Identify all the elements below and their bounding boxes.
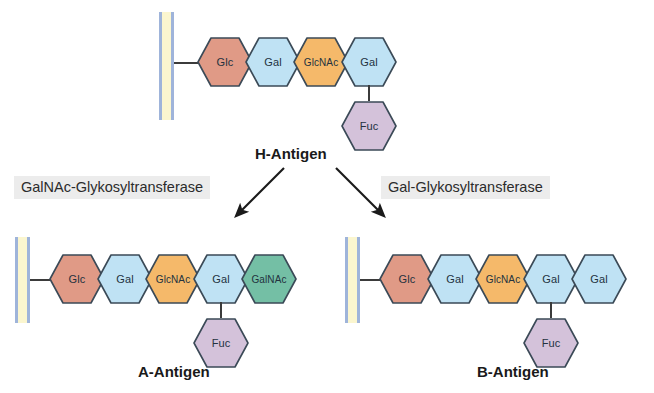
b-antigen-label: B-Antigen bbox=[477, 363, 549, 380]
membrane-line-outer bbox=[15, 237, 18, 323]
membrane-stem-a-antigen bbox=[30, 279, 50, 281]
sugar-hexagon-fuc-h-branch: Fuc bbox=[341, 101, 397, 151]
membrane-line-outer bbox=[159, 12, 162, 120]
branch-connector-a bbox=[220, 302, 222, 318]
membrane-fill bbox=[348, 237, 357, 323]
sugar-hexagon-galnac-a-4: GalNAc bbox=[241, 254, 297, 304]
membrane-fill bbox=[162, 12, 171, 120]
membrane-stem-top bbox=[174, 62, 198, 64]
sugar-hexagon-fuc-a-branch: Fuc bbox=[193, 318, 249, 368]
a-antigen-label: A-Antigen bbox=[138, 363, 210, 380]
membrane-b-antigen bbox=[344, 237, 361, 323]
branch-connector-h bbox=[368, 85, 370, 101]
membrane-top bbox=[158, 12, 175, 120]
branch-connector-b bbox=[550, 302, 552, 318]
membrane-a-antigen bbox=[14, 237, 31, 323]
membrane-line-inner bbox=[171, 12, 174, 120]
enzyme-label-gal-transferase: Gal-Glykosyltransferase bbox=[381, 176, 550, 199]
membrane-stem-b-antigen bbox=[360, 279, 380, 281]
enzyme-label-galnac-transferase: GalNAc-Glykosyltransferase bbox=[14, 176, 210, 199]
h-antigen-label: H-Antigen bbox=[255, 145, 327, 162]
arrow-to-a-antigen bbox=[230, 165, 290, 223]
sugar-hexagon-gal-h-3: Gal bbox=[341, 37, 397, 87]
membrane-line-outer bbox=[345, 237, 348, 323]
membrane-fill bbox=[18, 237, 27, 323]
glycan-diagram: GlcGalGlcNAcGalFuc H-Antigen GalNAc-Glyk… bbox=[0, 0, 654, 393]
arrow-to-b-antigen bbox=[330, 165, 390, 223]
sugar-hexagon-fuc-b-branch: Fuc bbox=[523, 318, 579, 368]
sugar-hexagon-gal-b-4: Gal bbox=[571, 254, 627, 304]
